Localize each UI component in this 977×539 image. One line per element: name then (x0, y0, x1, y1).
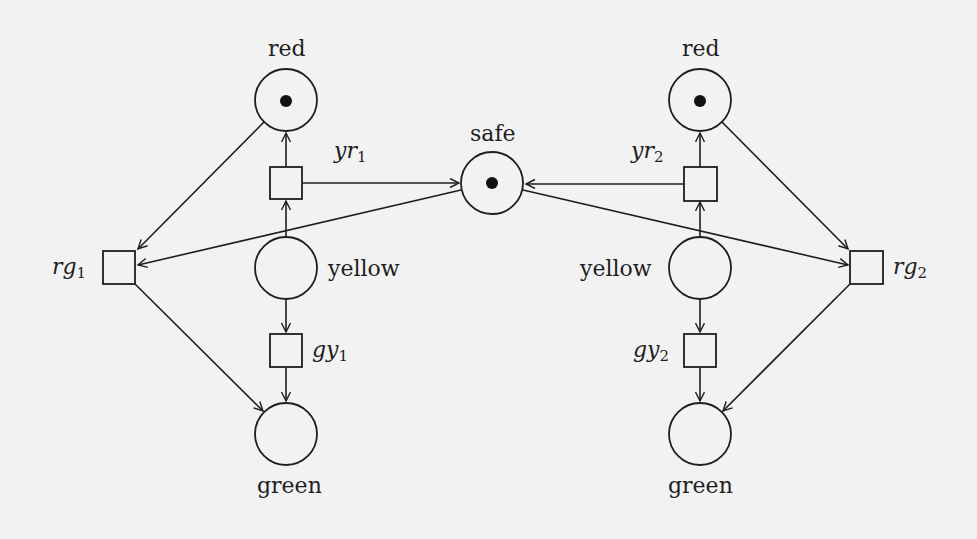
label-green-2: green (668, 475, 733, 497)
token-red-2 (694, 95, 706, 107)
petri-net-figure: red red safe yellow yellow green green y… (0, 0, 977, 539)
place-green-2 (669, 403, 731, 465)
transition-gy1 (270, 334, 302, 367)
label-yellow-1: yellow (328, 258, 400, 280)
token-safe (486, 177, 498, 189)
transition-yr2 (684, 167, 717, 201)
petri-net-diagram (0, 0, 977, 539)
arc-red2-rg2 (722, 122, 848, 249)
transition-rg2 (850, 251, 883, 284)
transition-rg1 (103, 251, 135, 284)
label-gy2: gy2 (633, 339, 669, 364)
transition-yr1 (270, 167, 302, 199)
arc-rg2-green2 (723, 284, 850, 411)
token-red-1 (280, 95, 292, 107)
place-yellow-1 (255, 237, 317, 299)
label-yr1: yr1 (334, 140, 367, 165)
label-rg2: rg2 (893, 256, 927, 281)
label-yellow-2: yellow (580, 258, 652, 280)
place-yellow-2 (669, 237, 731, 299)
label-gy1: gy1 (312, 339, 348, 364)
label-rg1: rg1 (52, 256, 86, 281)
label-safe: safe (470, 123, 516, 145)
label-green-1: green (257, 475, 322, 497)
label-yr2: yr2 (631, 140, 664, 165)
arc-red1-rg1 (138, 122, 264, 249)
transition-gy2 (684, 334, 716, 367)
label-red-2: red (682, 38, 720, 60)
arc-rg1-green1 (135, 284, 263, 411)
label-red-1: red (268, 38, 306, 60)
place-green-1 (255, 403, 317, 465)
